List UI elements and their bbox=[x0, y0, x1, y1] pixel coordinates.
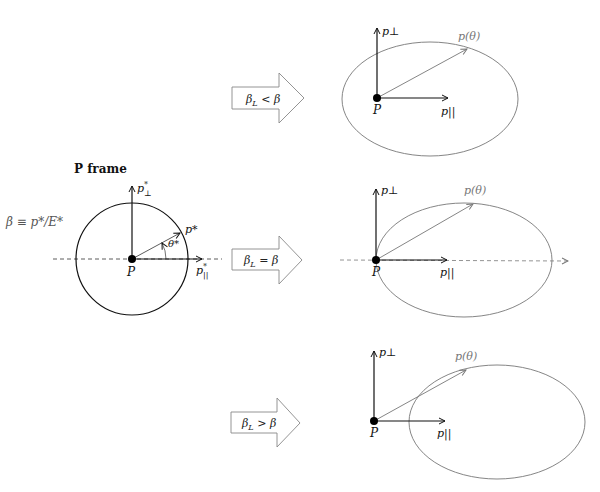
origin-label: P bbox=[371, 265, 381, 279]
p-theta-label: p(θ) bbox=[464, 184, 486, 197]
par-label: p|| bbox=[441, 105, 455, 119]
par-star-label: p*|| bbox=[196, 262, 208, 280]
p-theta-vector bbox=[376, 204, 473, 260]
arrow-label-3: βL > β bbox=[241, 417, 276, 432]
p-frame-title: P frame bbox=[74, 162, 127, 176]
p-theta-label: p(θ) bbox=[458, 30, 480, 43]
lab-frame-1: P p⊥ p|| p(θ) bbox=[342, 25, 518, 156]
origin-dot bbox=[372, 256, 380, 264]
origin-label: P bbox=[372, 103, 382, 117]
lab-frame-2: P p⊥ p|| p(θ) bbox=[340, 184, 568, 317]
lab-frame-3: P p⊥ p|| p(θ) bbox=[369, 346, 585, 479]
transform-arrow-3: βL > β bbox=[231, 398, 300, 447]
momentum-ellipse bbox=[409, 365, 585, 479]
perp-label: p⊥ bbox=[382, 25, 399, 38]
diagram-canvas: P frame β ≡ p*/E* P p*⊥ p*|| p* θ* βL < … bbox=[0, 0, 600, 492]
par-label: p|| bbox=[437, 427, 451, 441]
p-frame-panel: P frame β ≡ p*/E* P p*⊥ p*|| p* θ* bbox=[5, 162, 222, 315]
p-theta-vector bbox=[377, 49, 467, 98]
theta-star-label: θ* bbox=[168, 238, 179, 249]
origin-dot bbox=[128, 255, 136, 263]
p-theta-vector bbox=[374, 370, 466, 421]
origin-dot bbox=[373, 94, 381, 102]
perp-label: p⊥ bbox=[381, 184, 398, 197]
origin-label: P bbox=[369, 426, 379, 440]
par-label: p|| bbox=[440, 266, 454, 280]
arrow-label-1: βL < β bbox=[245, 93, 280, 108]
theta-star-arc bbox=[162, 243, 166, 259]
p-star-label: p* bbox=[185, 223, 198, 236]
momentum-ellipse bbox=[342, 42, 518, 156]
p-theta-label: p(θ) bbox=[455, 350, 477, 363]
origin-label: P bbox=[126, 265, 136, 279]
beta-definition: β ≡ p*/E* bbox=[5, 215, 63, 229]
origin-dot bbox=[370, 417, 378, 425]
arrow-label-2: βL = β bbox=[243, 254, 278, 269]
perp-label: p⊥ bbox=[379, 346, 396, 359]
transform-arrow-1: βL < β bbox=[232, 73, 304, 123]
perp-star-label: p*⊥ bbox=[137, 180, 152, 198]
transform-arrow-2: βL = β bbox=[232, 236, 302, 284]
